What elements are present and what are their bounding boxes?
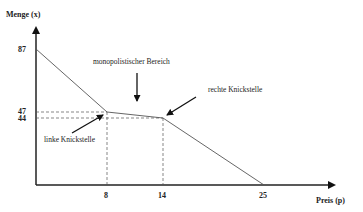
x-tick-14: 14 [158, 191, 166, 200]
y-tick-87: 87 [18, 45, 26, 54]
annotation-rechts: rechte Knickstelle [208, 85, 263, 94]
x-tick-8: 8 [104, 191, 108, 200]
kinked-demand-chart: Menge (x) Preis (p) 87 47 44 8 14 25 mon… [0, 0, 363, 212]
y-axis-label: Menge (x) [6, 10, 41, 19]
annotation-monopol: monopolistischer Bereich [93, 57, 170, 66]
y-tick-44: 44 [18, 114, 26, 123]
arrow-rechts [167, 97, 196, 115]
demand-curve [36, 49, 264, 185]
x-tick-25: 25 [259, 191, 267, 200]
annotation-links: linke Knickstelle [44, 135, 96, 144]
x-axis-label: Preis (p) [316, 196, 345, 205]
